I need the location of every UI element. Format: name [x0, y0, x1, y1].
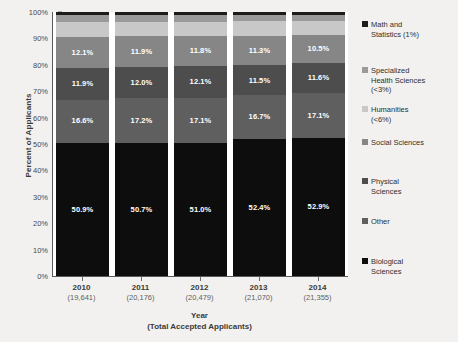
legend-label: SpecializedHealth Sciences(<3%) [371, 66, 425, 95]
x-axis-year-label: 2013 [229, 283, 288, 292]
segment-specialized-health-sciences-2010[interactable] [56, 15, 109, 22]
stacked-bar-2012[interactable]: 11.8%12.1%17.1%51.0% [174, 12, 227, 276]
segment-value-label: 50.7% [131, 206, 153, 214]
segment-humanities-2013[interactable] [233, 21, 286, 35]
stacked-bar-2013[interactable]: 11.3%11.5%16.7%52.4% [233, 12, 286, 276]
x-axis-applicant-count-label: (21,355) [288, 293, 347, 302]
legend-label-line: Other [371, 217, 390, 227]
segment-physical-sciences-2010[interactable]: 11.9% [56, 68, 109, 99]
segment-specialized-health-sciences-2011[interactable] [115, 15, 168, 22]
legend-label: PhysicalSciences [371, 177, 401, 196]
legend-swatch-icon [362, 21, 368, 27]
legend-swatch-icon [362, 106, 368, 112]
legend-item-biological-sciences[interactable]: BiologicalSciences [362, 257, 456, 276]
y-axis-tick-30: 30% [10, 192, 48, 201]
x-axis-applicant-count-label: (19,641) [52, 293, 111, 302]
stacked-bar-group: 12.1%11.9%16.6%50.9%11.9%12.0%17.2%50.7%… [53, 12, 348, 276]
segment-other-2010[interactable]: 16.6% [56, 100, 109, 143]
legend-label-line: (<6%) [371, 115, 409, 125]
segment-humanities-2011[interactable] [115, 22, 168, 36]
segment-value-label: 12.0% [131, 79, 153, 87]
y-axis-tick-70: 70% [10, 87, 48, 96]
plot-area: 12.1%11.9%16.6%50.9%11.9%12.0%17.2%50.7%… [52, 12, 348, 277]
legend-item-math-and-statistics-1[interactable]: Math andStatistics (1%) [362, 20, 456, 39]
legend-label: BiologicalSciences [371, 257, 403, 276]
x-axis-tickmark-2010 [82, 277, 83, 281]
segment-physical-sciences-2014[interactable]: 11.6% [292, 63, 345, 93]
y-axis-tick-90: 90% [10, 34, 48, 43]
legend-label-line: Biological [371, 257, 403, 267]
segment-biological-sciences-2014[interactable]: 52.9% [292, 138, 345, 276]
legend-item-other[interactable]: Other [362, 217, 456, 227]
x-axis-title-line2: (Total Accepted Applicants) [52, 321, 347, 332]
segment-social-sciences-2013[interactable]: 11.3% [233, 36, 286, 66]
bar-slot-2012: 11.8%12.1%17.1%51.0% [171, 12, 230, 276]
segment-other-2013[interactable]: 16.7% [233, 95, 286, 139]
x-axis-year-label: 2010 [52, 283, 111, 292]
legend-label-line: Sciences [371, 267, 403, 277]
legend-label-line: (<3%) [371, 85, 425, 95]
segment-physical-sciences-2012[interactable]: 12.1% [174, 66, 227, 98]
segment-biological-sciences-2012[interactable]: 51.0% [174, 143, 227, 276]
segment-value-label: 17.1% [308, 112, 330, 120]
segment-specialized-health-sciences-2012[interactable] [174, 15, 227, 22]
segment-biological-sciences-2011[interactable]: 50.7% [115, 143, 168, 276]
segment-social-sciences-2014[interactable]: 10.5% [292, 35, 345, 62]
y-axis-tick-80: 80% [10, 60, 48, 69]
segment-other-2011[interactable]: 17.2% [115, 98, 168, 143]
segment-value-label: 16.6% [72, 117, 94, 125]
segment-humanities-2012[interactable] [174, 22, 227, 36]
segment-value-label: 52.4% [249, 204, 271, 212]
x-axis-tickmark-2013 [259, 277, 260, 281]
segment-humanities-2010[interactable] [56, 22, 109, 37]
segment-value-label: 11.6% [308, 74, 329, 82]
legend-label-line: Humanities [371, 105, 409, 115]
x-axis-tick-2013: 2013(21,070) [229, 277, 288, 307]
segment-other-2014[interactable]: 17.1% [292, 93, 345, 138]
segment-value-label: 16.7% [249, 113, 271, 121]
segment-social-sciences-2010[interactable]: 12.1% [56, 37, 109, 69]
x-axis-year-label: 2011 [111, 283, 170, 292]
segment-physical-sciences-2013[interactable]: 11.5% [233, 65, 286, 95]
legend-label-line: Statistics (1%) [371, 30, 419, 40]
x-axis-applicant-count-label: (21,070) [229, 293, 288, 302]
segment-other-2012[interactable]: 17.1% [174, 98, 227, 143]
segment-physical-sciences-2011[interactable]: 12.0% [115, 67, 168, 98]
y-axis-tick-20: 20% [10, 219, 48, 228]
legend-label: Math andStatistics (1%) [371, 20, 419, 39]
legend-label: Other [371, 217, 390, 227]
y-axis-tick-10: 10% [10, 245, 48, 254]
segment-social-sciences-2011[interactable]: 11.9% [115, 36, 168, 67]
legend-swatch-icon [362, 258, 368, 264]
segment-value-label: 10.5% [308, 45, 330, 53]
segment-value-label: 11.8% [190, 47, 211, 55]
x-axis-applicant-count-label: (20,479) [170, 293, 229, 302]
y-axis-tick-labels: 100%90%80%70%60%50%40%30%20%10%0% [10, 12, 48, 276]
legend-label-line: Social Sciences [371, 138, 424, 148]
bar-slot-2013: 11.3%11.5%16.7%52.4% [230, 12, 289, 276]
x-axis-tickmark-2014 [318, 277, 319, 281]
chart-legend: Math andStatistics (1%)SpecializedHealth… [362, 14, 456, 290]
x-axis-tickmark-2011 [141, 277, 142, 281]
legend-item-physical-sciences[interactable]: PhysicalSciences [362, 177, 456, 196]
segment-humanities-2014[interactable] [292, 21, 345, 35]
segment-biological-sciences-2010[interactable]: 50.9% [56, 143, 109, 276]
legend-item-social-sciences[interactable]: Social Sciences [362, 138, 456, 148]
segment-value-label: 12.1% [72, 49, 94, 57]
x-axis-tick-2010: 2010(19,641) [52, 277, 111, 307]
segment-value-label: 52.9% [308, 203, 330, 211]
segment-social-sciences-2012[interactable]: 11.8% [174, 36, 227, 67]
stacked-bar-2014[interactable]: 10.5%11.6%17.1%52.9% [292, 12, 345, 276]
stacked-bar-2011[interactable]: 11.9%12.0%17.2%50.7% [115, 12, 168, 276]
stacked-bar-2010[interactable]: 12.1%11.9%16.6%50.9% [56, 12, 109, 276]
x-axis-applicant-count-label: (20,176) [111, 293, 170, 302]
y-axis-tick-60: 60% [10, 113, 48, 122]
legend-item-humanities-6[interactable]: Humanities(<6%) [362, 105, 456, 124]
segment-biological-sciences-2013[interactable]: 52.4% [233, 139, 286, 276]
legend-label-line: Physical [371, 177, 401, 187]
y-axis-tick-50: 50% [10, 140, 48, 149]
legend-item-specialized-health-sciences-3[interactable]: SpecializedHealth Sciences(<3%) [362, 66, 456, 95]
segment-specialized-health-sciences-2013[interactable] [233, 15, 286, 22]
legend-label-line: Math and [371, 20, 419, 30]
legend-label-line: Health Sciences [371, 76, 425, 86]
